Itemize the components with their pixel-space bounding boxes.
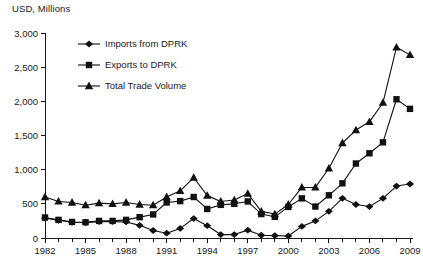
y-tick-label: 1,500 (14, 130, 38, 141)
chart-plot-area: 05001,0001,5002,0002,5003,000 1982198519… (0, 0, 423, 268)
x-tick-label: 1994 (197, 245, 218, 256)
legend-marker-diamond-icon (85, 41, 93, 48)
data-point-marker (392, 43, 400, 51)
data-point-marker (191, 194, 197, 200)
data-point-marker (365, 203, 373, 210)
data-point-marker (42, 214, 48, 220)
data-point-marker (122, 198, 130, 206)
y-tick-label: 500 (22, 198, 38, 209)
x-tick-label: 1985 (75, 245, 96, 256)
data-point-marker (177, 198, 183, 204)
data-point-marker (325, 164, 333, 172)
data-point-marker (379, 98, 387, 106)
y-axis-ticks: 05001,0001,5002,0002,5003,000 (14, 28, 45, 244)
data-point-marker (245, 198, 251, 204)
data-point-marker (407, 106, 413, 112)
data-point-marker (406, 181, 414, 188)
series-total-trade-volume (41, 43, 414, 217)
data-point-marker (69, 219, 75, 225)
data-point-marker (244, 189, 252, 197)
y-tick-label: 2,500 (14, 62, 38, 73)
y-tick-label: 0 (33, 233, 38, 244)
data-point-marker (55, 217, 61, 223)
y-tick-label: 2,000 (14, 96, 38, 107)
legend-item-diamond: Imports from DPRK (78, 38, 188, 49)
data-point-marker (123, 217, 129, 223)
legend-item-label: Exports to DPRK (105, 59, 177, 70)
data-point-marker (82, 219, 88, 225)
data-point-marker (326, 192, 332, 198)
legend-marker-triangle-icon (85, 82, 93, 90)
trade-volume-line-chart: USD, Millions 05001,0001,5002,0002,5003,… (0, 0, 423, 268)
data-point-marker (298, 183, 306, 191)
data-point-marker (163, 199, 169, 205)
data-point-marker (299, 195, 305, 201)
data-point-marker (163, 230, 171, 237)
data-point-marker (204, 206, 210, 212)
x-tick-label: 2006 (359, 245, 380, 256)
x-tick-label: 1988 (116, 245, 137, 256)
y-tick-label: 1,000 (14, 164, 38, 175)
data-point-marker (190, 173, 198, 181)
data-point-marker (380, 139, 386, 145)
x-tick-label: 1997 (237, 245, 258, 256)
x-axis-ticks: 1982198519881991199419972000200320062009 (34, 238, 420, 256)
data-point-marker (41, 193, 49, 201)
x-tick-label: 2000 (278, 245, 299, 256)
legend-item-square: Exports to DPRK (78, 59, 177, 70)
x-tick-label: 2009 (399, 245, 420, 256)
data-point-marker (339, 180, 345, 186)
y-tick-label: 3,000 (14, 28, 38, 39)
data-point-marker (95, 199, 103, 207)
data-point-marker (352, 201, 360, 208)
data-series-group (41, 43, 414, 239)
legend-item-triangle: Total Trade Volume (78, 80, 186, 91)
legend-marker-square-icon (86, 62, 92, 68)
x-tick-label: 1991 (156, 245, 177, 256)
data-point-marker (136, 222, 144, 229)
data-point-marker (352, 126, 360, 134)
series-imports-from-dprk (41, 181, 414, 240)
data-point-marker (366, 150, 372, 156)
legend-item-label: Imports from DPRK (105, 38, 188, 49)
data-point-marker (96, 218, 102, 224)
data-point-marker (230, 196, 238, 204)
legend-item-label: Total Trade Volume (105, 80, 186, 91)
data-point-marker (230, 231, 238, 238)
data-point-marker (406, 50, 414, 58)
x-tick-label: 2003 (318, 245, 339, 256)
data-point-marker (136, 214, 142, 220)
x-tick-label: 1982 (34, 245, 55, 256)
data-point-marker (162, 193, 170, 201)
data-point-marker (244, 227, 252, 234)
data-point-marker (353, 160, 359, 166)
data-point-marker (393, 96, 399, 102)
chart-legend: Imports from DPRKExports to DPRKTotal Tr… (78, 38, 188, 91)
data-point-marker (149, 227, 157, 234)
data-point-marker (109, 218, 115, 224)
data-point-marker (150, 211, 156, 217)
data-point-marker (312, 203, 318, 209)
